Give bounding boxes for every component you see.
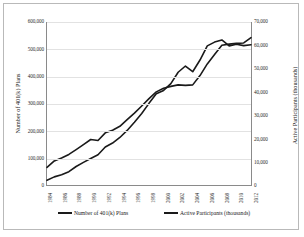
y-axis-left-tick-label: 500,000 bbox=[28, 47, 44, 52]
x-axis-tick-label: 1992 bbox=[107, 193, 112, 203]
x-axis-tick-label: 1988 bbox=[77, 193, 82, 203]
x-axis-tick-label: 1994 bbox=[122, 193, 127, 203]
y-axis-right-tick-label: 50,000 bbox=[254, 66, 268, 71]
y-axis-left-tick-label: 600,000 bbox=[28, 19, 44, 24]
x-axis-tick-label: 2012 bbox=[254, 193, 259, 203]
y-axis-right-title: Active Participants (thousands) bbox=[291, 46, 298, 166]
legend-swatch bbox=[164, 212, 178, 214]
legend-item: Number of 401(k) Plans bbox=[58, 210, 128, 216]
gridline bbox=[47, 77, 251, 78]
x-axis-tick-label: 2008 bbox=[225, 193, 230, 203]
x-axis-ticks: 1984198619881990199219941996199820002002… bbox=[46, 187, 252, 209]
y-axis-right-tick-label: 40,000 bbox=[254, 90, 268, 95]
y-axis-right-tick-label: 20,000 bbox=[254, 137, 268, 142]
x-axis-tick-label: 2000 bbox=[166, 193, 171, 203]
chart-legend: Number of 401(k) PlansActive Participant… bbox=[46, 210, 258, 222]
legend-item: Active Participants (thousands) bbox=[164, 210, 250, 216]
y-axis-left-tick-label: 200,000 bbox=[28, 129, 44, 134]
gridline bbox=[47, 131, 251, 132]
gridline bbox=[47, 22, 251, 23]
x-axis-tick-label: 1996 bbox=[136, 193, 141, 203]
y-axis-right-tick-label: 10,000 bbox=[254, 160, 268, 165]
y-axis-right-tick-label: 70,000 bbox=[254, 19, 268, 24]
y-axis-right-ticks: 010,00020,00030,00040,00050,00060,00070,… bbox=[254, 22, 288, 186]
legend-label: Number of 401(k) Plans bbox=[74, 210, 128, 216]
y-axis-left-tick-label: 400,000 bbox=[28, 74, 44, 79]
y-axis-left-ticks: 0100,000200,000300,000400,000500,000600,… bbox=[4, 22, 44, 186]
x-axis-tick-label: 2006 bbox=[210, 193, 215, 203]
x-axis-tick-label: 1998 bbox=[151, 193, 156, 203]
gridline bbox=[47, 159, 251, 160]
y-axis-right-tick-label: 30,000 bbox=[254, 113, 268, 118]
x-axis-tick-label: 2004 bbox=[195, 193, 200, 203]
gridline bbox=[47, 104, 251, 105]
x-axis-tick-label: 1984 bbox=[48, 193, 53, 203]
legend-swatch bbox=[58, 212, 72, 214]
y-axis-left-tick-label: 100,000 bbox=[28, 156, 44, 161]
y-axis-right-tick-label: 0 bbox=[254, 183, 257, 188]
x-axis-tick-label: 1986 bbox=[63, 193, 68, 203]
legend-label: Active Participants (thousands) bbox=[180, 210, 250, 216]
chart-figure: Number of 401(k) Plans Active Participan… bbox=[3, 3, 299, 230]
x-axis-tick-label: 2010 bbox=[239, 193, 244, 203]
gridline bbox=[47, 49, 251, 50]
y-axis-right-tick-label: 60,000 bbox=[254, 43, 268, 48]
x-axis-tick-label: 1990 bbox=[92, 193, 97, 203]
x-axis-tick-label: 2002 bbox=[180, 193, 185, 203]
y-axis-left-tick-label: 0 bbox=[42, 183, 45, 188]
y-axis-left-tick-label: 300,000 bbox=[28, 101, 44, 106]
plot-area bbox=[46, 22, 252, 186]
